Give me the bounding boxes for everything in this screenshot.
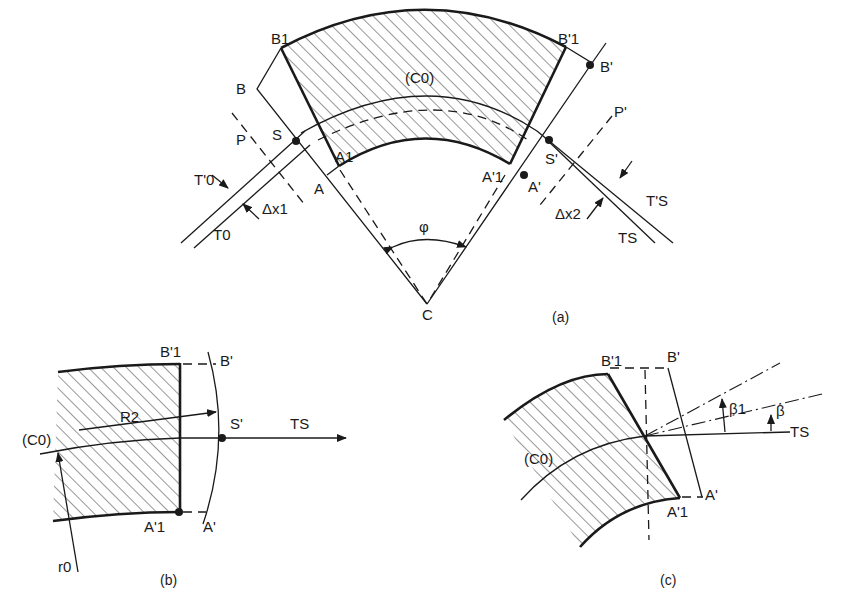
radial-left-dash	[340, 170, 427, 304]
label-dx2: Δx2	[555, 205, 581, 222]
label-c0: (C0)	[405, 69, 434, 86]
label-a1p-c: A'1	[667, 503, 688, 520]
point-sp	[545, 136, 553, 144]
label-beta1: β1	[729, 400, 746, 417]
tsp-arrow	[620, 161, 632, 178]
label-ts: TS	[618, 229, 637, 246]
label-bp-c: B'	[667, 348, 680, 365]
strip-tsp	[537, 131, 673, 243]
label-sp-b: S'	[230, 415, 243, 432]
label-a1p: A'1	[482, 168, 503, 185]
point-bp	[586, 61, 594, 69]
label-r0: r0	[58, 558, 71, 575]
point-s	[292, 137, 300, 145]
label-ts-c: TS	[790, 423, 809, 440]
label-c0-c: (C0)	[524, 450, 553, 467]
label-ap-c: A'	[705, 486, 718, 503]
outline-a-a1	[327, 166, 339, 175]
caption-a: (a)	[552, 309, 569, 325]
label-p: P	[236, 131, 246, 148]
outline-bp-ap-c	[668, 368, 702, 497]
radial-right-dash	[427, 175, 505, 304]
beta1-arrow	[722, 399, 725, 432]
ts-line-c	[645, 432, 790, 436]
label-c0-b: (C0)	[22, 431, 51, 448]
panel-a: B1 B B'1 B' (C0) S P P' S' A1 A A'1 A' T…	[181, 10, 673, 325]
label-b1p-b: B'1	[160, 343, 181, 360]
label-ts-b: TS	[290, 415, 309, 432]
label-ap-b: A'	[203, 518, 216, 535]
label-c: C	[422, 306, 433, 323]
label-sp: S'	[545, 150, 558, 167]
hatched-region-a	[281, 10, 566, 166]
point-a1p-b	[175, 508, 183, 516]
label-a1: A1	[335, 148, 353, 165]
dx2-arrow	[587, 198, 603, 219]
label-t0p: T'0	[194, 171, 214, 188]
caption-b: (b)	[160, 572, 177, 588]
caption-c: (c)	[660, 572, 676, 588]
label-b1p-c: B'1	[601, 352, 622, 369]
label-s: S	[272, 126, 282, 143]
strip-t0	[194, 145, 310, 248]
point-ap	[520, 171, 528, 179]
strip-ts	[545, 138, 655, 243]
dx1-arrow	[243, 204, 259, 219]
label-t0: T0	[213, 226, 231, 243]
panel-b: B'1 B' R2 (C0) S' TS A'1 A' r0 (b)	[22, 343, 346, 588]
label-a: A	[314, 180, 324, 197]
label-tsp: T'S	[646, 192, 668, 209]
beta1-line	[645, 363, 780, 436]
t0p-arrow	[212, 175, 228, 188]
label-beta: β	[776, 402, 785, 419]
phi-arc	[393, 240, 466, 248]
label-b: B	[236, 80, 246, 97]
label-bp-b: B'	[220, 352, 233, 369]
label-dx1: Δx1	[262, 200, 288, 217]
label-ap: A'	[528, 178, 541, 195]
figure: B1 B B'1 B' (C0) S P P' S' A1 A A'1 A' T…	[0, 0, 852, 610]
panel-c: B'1 B' β1 β TS (C0) A'1 A' (c)	[504, 348, 826, 588]
label-r2: R2	[120, 408, 139, 425]
label-b1p: B'1	[558, 30, 579, 47]
label-b1: B1	[271, 30, 289, 47]
label-bp: B'	[600, 58, 613, 75]
label-pp: P'	[614, 103, 627, 120]
label-a1p-b: A'1	[144, 518, 165, 535]
label-phi: φ	[419, 218, 429, 235]
point-sp-b	[218, 434, 226, 442]
